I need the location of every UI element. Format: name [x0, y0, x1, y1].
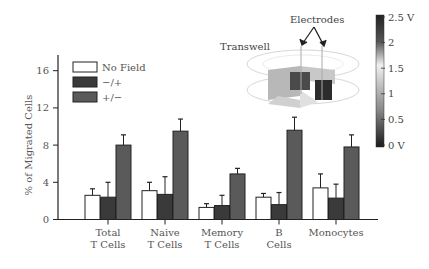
colorbar-tick-label: 1.5	[388, 63, 404, 74]
legend-swatch	[73, 77, 97, 87]
bar	[215, 206, 230, 220]
x-category-label: Memory	[201, 227, 243, 238]
x-category-label: Naive	[150, 227, 180, 238]
x-category-label: B	[275, 227, 282, 238]
x-category-label: Cells	[266, 239, 291, 250]
y-axis-label: % of Migrated Cells	[23, 95, 34, 196]
x-category-label: T Cells	[91, 239, 126, 250]
legend-label: No Field	[102, 62, 146, 73]
bar	[173, 131, 188, 219]
x-category-label: Total	[95, 227, 120, 238]
y-ticks: 0481216	[36, 65, 58, 225]
electrodes-arrow-icon	[300, 27, 326, 46]
colorbar	[376, 15, 384, 147]
bar	[199, 207, 214, 219]
bar	[272, 205, 287, 220]
y-tick-label: 16	[36, 65, 49, 76]
bar-chart: % of Migrated Cells 0481216 TotalT Cells…	[0, 0, 429, 269]
colorbar-tick-label: 2.5 V	[388, 12, 415, 23]
colorbar-tick-label: 2	[388, 37, 394, 48]
bar	[158, 194, 173, 219]
legend-label: −/+	[102, 77, 122, 88]
bars	[85, 117, 359, 219]
transwell-label: Transwell	[220, 41, 270, 52]
x-category-label: T Cells	[148, 239, 183, 250]
y-tick-label: 0	[43, 214, 49, 225]
bar	[287, 130, 302, 219]
legend: No Field−/++/−	[73, 62, 146, 103]
colorbar-tick-label: 0 V	[388, 140, 406, 151]
legend-swatch	[73, 92, 97, 102]
y-tick-label: 4	[43, 177, 49, 188]
bar	[313, 188, 328, 220]
bar	[256, 197, 271, 219]
bar	[329, 198, 344, 219]
legend-swatch	[73, 62, 97, 72]
bar	[344, 147, 359, 220]
colorbar-tick-label: 1	[388, 88, 394, 99]
bar	[85, 195, 100, 219]
x-category-label: Monocytes	[308, 227, 363, 238]
transwell-inset: Transwell Electrodes 2.5 V21.510.50 V	[220, 12, 415, 151]
electrodes-label: Electrodes	[290, 14, 344, 25]
y-tick-label: 8	[43, 140, 49, 151]
bar	[116, 145, 131, 219]
colorbar-ticks: 2.5 V21.510.50 V	[381, 12, 415, 151]
y-tick-label: 12	[36, 102, 49, 113]
x-category-label: T Cells	[205, 239, 240, 250]
bar	[101, 197, 116, 219]
legend-label: +/−	[102, 92, 122, 103]
transwell-icon	[247, 46, 359, 108]
colorbar-tick-label: 0.5	[388, 114, 404, 125]
bar	[230, 174, 245, 220]
bar	[142, 191, 157, 220]
x-category-labels: TotalT CellsNaiveT CellsMemoryT CellsBCe…	[91, 220, 364, 251]
